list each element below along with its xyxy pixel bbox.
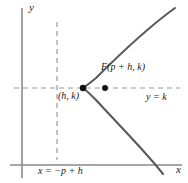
y-axis-label: y [29,2,34,13]
focus-point [102,85,108,91]
axis-of-symmetry-label: y = k [146,92,167,102]
focus-label: F(p + h, k) [101,62,145,72]
directrix-label: x = −p + h [38,166,83,176]
vertex-label: (h, k) [58,91,79,101]
x-axis-label: x [176,164,181,175]
parabola-figure: y x F(p + h, k) (h, k) y = k x = −p + h [0,0,188,183]
vertex-point [80,85,86,91]
